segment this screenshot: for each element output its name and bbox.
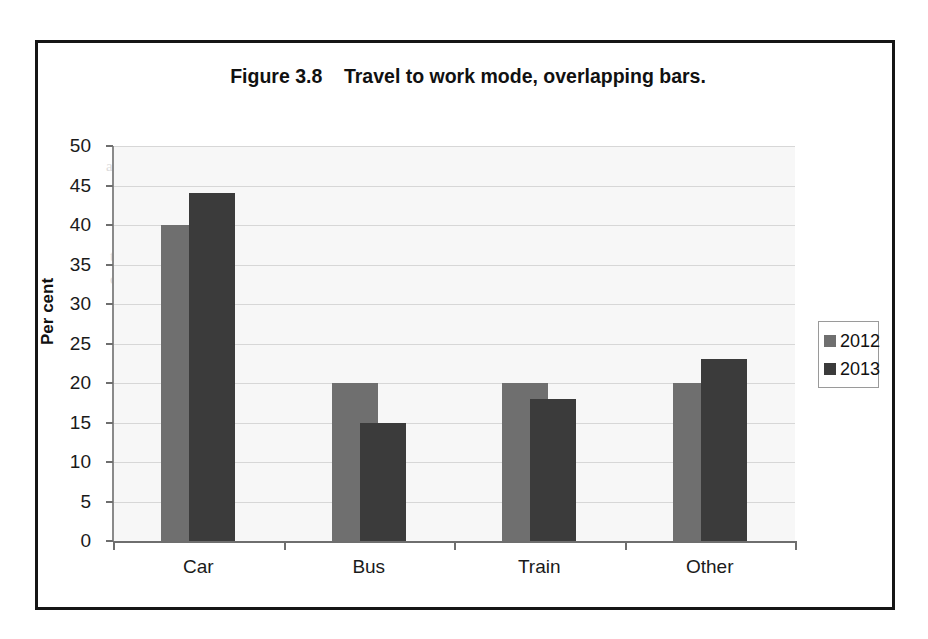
y-tick-label-35: 35	[51, 254, 91, 276]
x-axis-separator-0	[113, 541, 115, 550]
x-axis-separator-4	[795, 541, 797, 550]
legend-label-2013: 2013	[840, 360, 880, 378]
y-axis-title: Per cent	[38, 278, 58, 345]
bar-other-2013	[701, 359, 747, 541]
y-tick-mark-5	[106, 501, 113, 503]
y-tick-mark-40	[106, 224, 113, 226]
y-tick-mark-30	[106, 303, 113, 305]
y-tick-mark-25	[106, 343, 113, 345]
x-axis-separator-3	[625, 541, 627, 550]
y-tick-mark-15	[106, 422, 113, 424]
chart-legend: 2012 2013	[818, 321, 879, 388]
y-tick-label-5: 5	[51, 491, 91, 513]
bar-car-2013	[189, 193, 235, 541]
x-category-label-car: Car	[183, 556, 214, 578]
legend-swatch-2013	[824, 363, 836, 375]
legend-swatch-2012	[824, 335, 836, 347]
x-axis-separator-2	[454, 541, 456, 550]
x-category-label-bus: Bus	[352, 556, 385, 578]
legend-item-2012: 2012	[824, 327, 878, 355]
gridline-45	[113, 186, 795, 187]
y-tick-label-40: 40	[51, 214, 91, 236]
y-tick-mark-35	[106, 264, 113, 266]
legend-label-2012: 2012	[840, 332, 880, 350]
y-tick-mark-50	[106, 145, 113, 147]
gridline-50	[113, 146, 795, 147]
x-axis-separator-1	[284, 541, 286, 550]
y-tick-mark-45	[106, 185, 113, 187]
x-category-label-train: Train	[518, 556, 561, 578]
y-tick-mark-0	[106, 540, 113, 542]
y-tick-mark-10	[106, 461, 113, 463]
y-tick-label-15: 15	[51, 412, 91, 434]
bar-bus-2013	[360, 423, 406, 542]
bar-train-2013	[530, 399, 576, 541]
y-tick-label-0: 0	[51, 530, 91, 552]
y-tick-label-10: 10	[51, 451, 91, 473]
y-tick-label-45: 45	[51, 175, 91, 197]
x-category-label-other: Other	[686, 556, 734, 578]
chart-title: Figure 3.8 Travel to work mode, overlapp…	[38, 65, 898, 88]
y-tick-mark-20	[106, 382, 113, 384]
legend-item-2013: 2013	[824, 355, 878, 383]
y-tick-label-50: 50	[51, 135, 91, 157]
y-tick-label-20: 20	[51, 372, 91, 394]
